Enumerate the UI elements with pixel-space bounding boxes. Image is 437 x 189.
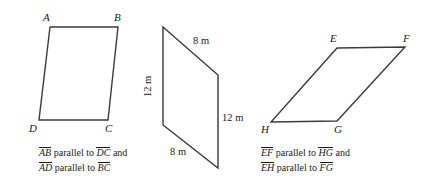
dimension-label-top: 8 m	[193, 36, 209, 47]
left-parallelogram-shape	[39, 27, 118, 120]
segment-bc: BC	[98, 162, 111, 174]
dimension-label-left: 12 m	[143, 76, 154, 97]
left-parallelogram-caption: AB parallel to DC and AD parallel to BC	[39, 146, 127, 175]
right-caption-mid-2: parallel to	[274, 162, 319, 173]
vertex-label-g: G	[334, 124, 342, 135]
vertex-label-e: E	[330, 33, 337, 44]
dimension-label-bottom: 8 m	[170, 147, 186, 158]
left-caption-tail-1: and	[110, 147, 127, 158]
segment-ad: AD	[39, 162, 52, 174]
right-caption-tail-1: and	[333, 147, 350, 158]
segment-fg: FG	[320, 162, 333, 174]
segment-ab: AB	[39, 147, 51, 159]
right-caption-line-2: EH parallel to FG	[261, 161, 350, 176]
left-caption-mid-1: parallel to	[51, 147, 96, 158]
segment-eh: EH	[261, 162, 274, 174]
dimension-label-right: 12 m	[222, 113, 243, 124]
segment-dc: DC	[96, 147, 110, 159]
vertex-label-b: B	[114, 12, 121, 23]
vertex-label-f: F	[403, 33, 410, 44]
vertex-label-h: H	[261, 124, 269, 135]
segment-hg: HG	[318, 147, 332, 159]
vertex-label-a: A	[43, 12, 50, 23]
right-caption-mid-1: parallel to	[273, 147, 318, 158]
right-caption-line-1: EF parallel to HG and	[261, 146, 350, 161]
right-parallelogram-shape	[271, 47, 405, 122]
left-caption-mid-2: parallel to	[52, 162, 97, 173]
left-caption-line-1: AB parallel to DC and	[39, 146, 127, 161]
left-caption-line-2: AD parallel to BC	[39, 161, 127, 176]
vertex-label-d: D	[29, 123, 37, 134]
segment-ef: EF	[261, 147, 273, 159]
vertex-label-c: C	[105, 123, 112, 134]
right-parallelogram-caption: EF parallel to HG and EH parallel to FG	[261, 146, 350, 175]
